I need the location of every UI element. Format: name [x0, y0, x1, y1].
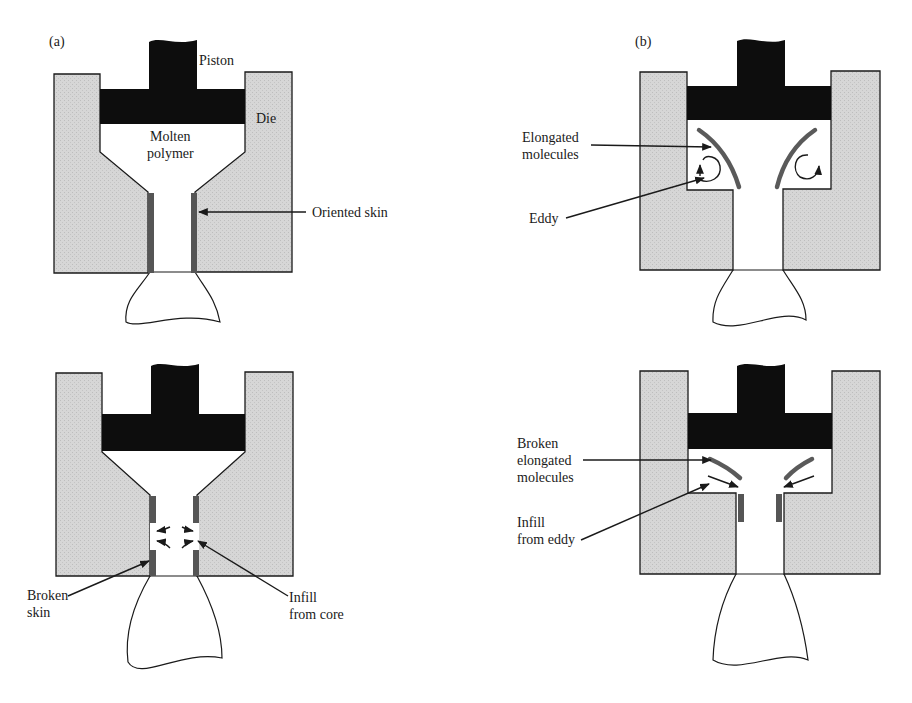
molten-label-line1: Molten [150, 128, 190, 145]
extrudate [713, 270, 806, 326]
panel-b-top-diagram [566, 39, 880, 326]
piston [102, 364, 245, 451]
skin-fragment-left [738, 494, 744, 522]
broken-molecules-label-line3: molecules [517, 469, 574, 486]
broken-molecule-left [710, 459, 740, 478]
skin-fragment-right [776, 494, 782, 522]
skin-gap-right [193, 523, 199, 550]
eddy-label: Eddy [529, 210, 559, 227]
piston [688, 364, 832, 449]
die-right [197, 372, 293, 576]
skin-gap-left [150, 523, 156, 550]
extrudate [127, 576, 222, 669]
infill-core-label-line2: from core [289, 606, 344, 623]
die-left [640, 371, 736, 574]
infill-core-label-line1: Infill [289, 589, 317, 606]
broken-skin-right-upper [193, 496, 199, 523]
infill-arrow [182, 541, 193, 548]
eddy-swirl-right [795, 155, 819, 179]
molten-label-line2: polymer [147, 145, 194, 162]
broken-skin-label-line2: skin [27, 604, 50, 621]
panel-a-top-diagram [54, 40, 306, 324]
panel-b-bottom-diagram [581, 364, 880, 665]
die-label: Die [256, 110, 276, 127]
oriented-skin-label: Oriented skin [312, 204, 388, 221]
piston [687, 39, 831, 120]
infill-eddy-label-line2: from eddy [517, 531, 575, 548]
infill-arrow [182, 527, 193, 531]
die-right [784, 371, 880, 574]
piston-label: Piston [199, 52, 234, 69]
extrudate [713, 574, 808, 665]
extrusion-die-figure: (a) Piston Die Molten polymer Oriented s… [0, 0, 912, 703]
infill-arrow [157, 541, 170, 548]
infill-eddy-arrow-left [708, 476, 738, 487]
broken-molecule-right [786, 459, 812, 478]
broken-skin-label-line1: Broken [27, 587, 68, 604]
elongated-molecule-left [699, 130, 739, 187]
panel-a-bottom-diagram [56, 364, 293, 669]
elongated-label-line1: Elongated [522, 129, 579, 146]
elongated-label-line2: molecules [522, 146, 579, 163]
panel-a-label: (a) [49, 33, 65, 50]
broken-skin-left-lower [150, 550, 156, 576]
broken-molecules-label-line1: Broken [517, 435, 558, 452]
infill-arrow [157, 527, 170, 531]
oriented-skin-left [148, 193, 154, 273]
extrudate [126, 272, 220, 324]
broken-skin-right-lower [193, 550, 199, 576]
infill-eddy-label-line1: Infill [517, 514, 545, 531]
die-left [56, 373, 150, 576]
eddy-swirl-left [700, 157, 720, 182]
panel-b-label: (b) [635, 33, 651, 50]
oriented-skin-right [191, 193, 197, 273]
broken-molecules-label-line2: elongated [517, 452, 571, 469]
elongated-molecules-leader [591, 145, 711, 147]
figure-canvas [0, 0, 912, 703]
broken-skin-left-upper [150, 496, 156, 523]
